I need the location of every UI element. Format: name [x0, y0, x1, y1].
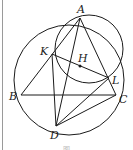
label-b: B [8, 90, 17, 103]
geometry-figure: A B C D K L H 图 [0, 0, 133, 150]
segment-dl [56, 78, 109, 126]
figure-caption: 图 [63, 146, 70, 150]
segment-dc [56, 95, 116, 126]
label-a: A [76, 3, 85, 16]
label-k: K [39, 45, 49, 58]
label-h: H [77, 52, 88, 65]
label-l: L [111, 74, 119, 87]
label-d: D [49, 129, 59, 142]
circle-akl [55, 15, 123, 83]
label-c: C [119, 93, 128, 106]
segment-kd [52, 54, 56, 126]
